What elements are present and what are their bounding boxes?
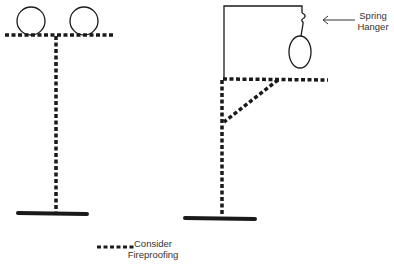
left-base-plate xyxy=(18,213,87,214)
arrow-left-icon xyxy=(323,16,355,24)
hanging-pipe xyxy=(289,36,311,68)
left-support xyxy=(5,7,113,214)
legend-label-line2: Fireproofing xyxy=(118,249,188,260)
pipe-left-1 xyxy=(17,7,45,35)
spring-hanger-label: Spring Hanger xyxy=(352,10,394,32)
spring-hanger-label-line1: Spring xyxy=(352,10,394,21)
legend-label: Consider Fireproofing xyxy=(118,238,188,260)
right-base-plate xyxy=(185,218,255,219)
spring-icon xyxy=(301,13,305,36)
diagram-canvas xyxy=(0,0,394,264)
hanger-frame xyxy=(224,6,302,78)
pipe-left-2 xyxy=(70,7,98,35)
right-brace-fireproofing xyxy=(224,80,278,122)
spring-hanger-label-line2: Hanger xyxy=(352,21,394,32)
legend-label-line1: Consider xyxy=(118,238,188,249)
right-support xyxy=(185,6,328,219)
